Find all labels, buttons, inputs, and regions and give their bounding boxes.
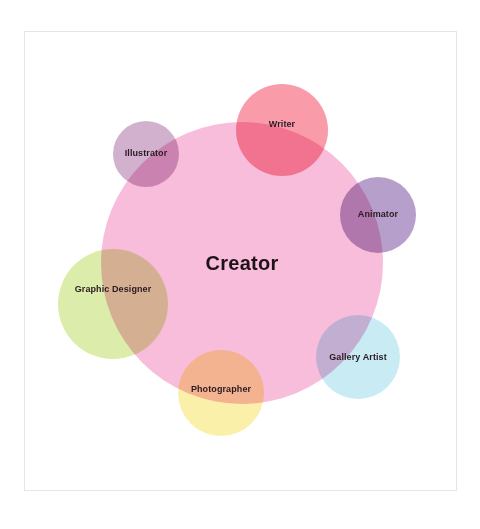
label-writer: Writer (269, 119, 295, 129)
circle-writer (236, 84, 328, 176)
circle-graphic-designer (58, 249, 168, 359)
label-gallery-artist: Gallery Artist (329, 352, 387, 362)
label-illustrator: Illustrator (125, 148, 168, 158)
label-animator: Animator (358, 209, 398, 219)
label-photographer: Photographer (191, 384, 251, 394)
label-creator: Creator (205, 252, 278, 275)
label-graphic-designer: Graphic Designer (75, 284, 152, 294)
creator-venn-diagram: Creator Writer Illustrator Animator Grap… (0, 0, 480, 529)
